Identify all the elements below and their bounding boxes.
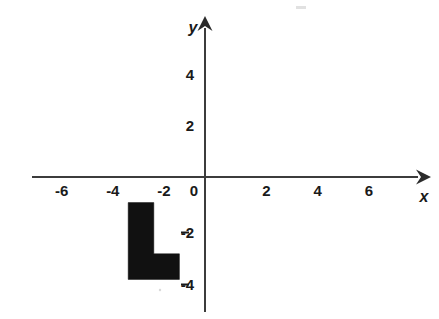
x-tick-label-pos6: 6 (365, 182, 373, 199)
x-tick-label-pos4: 4 (313, 182, 322, 199)
coordinate-plane-svg: -6 -4 -2 0 2 4 6 4 2 -2 -4 x y (0, 0, 439, 319)
y-tick-label-pos4: 4 (186, 66, 195, 83)
x-tick-label-neg6: -6 (55, 182, 68, 199)
x-tick-label-zero: 0 (190, 182, 198, 199)
x-tick-label-neg2: -2 (157, 182, 170, 199)
x-tick-label-neg4: -4 (106, 182, 120, 199)
scan-artifact-top (296, 6, 306, 9)
x-axis-label: x (419, 188, 430, 205)
y-axis-label: y (188, 19, 199, 36)
x-tick-label-pos2: 2 (262, 182, 270, 199)
y-tick-label-pos2: 2 (186, 117, 194, 134)
plot-background (0, 0, 439, 319)
coordinate-plane-figure: -6 -4 -2 0 2 4 6 4 2 -2 -4 x y (0, 0, 439, 319)
scan-artifact-lower (159, 289, 161, 291)
